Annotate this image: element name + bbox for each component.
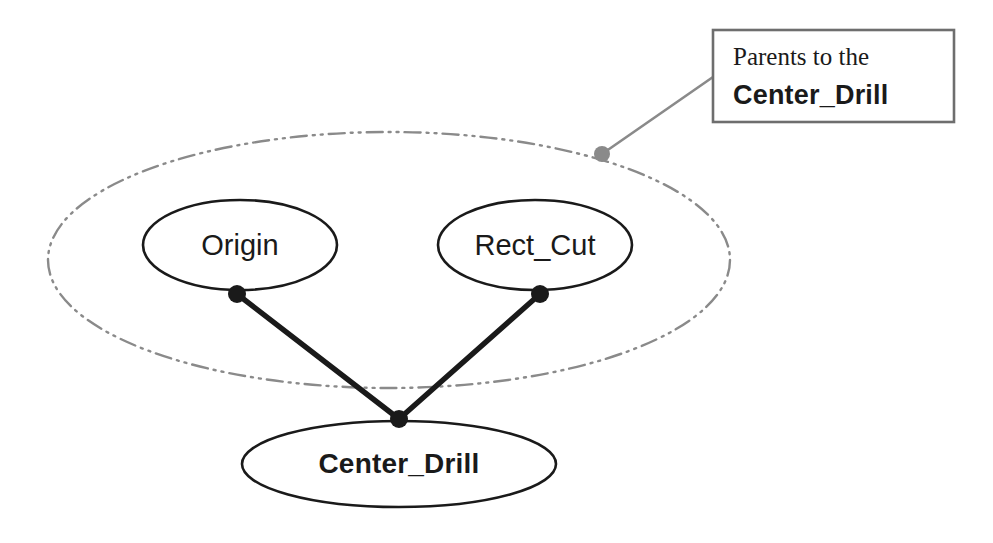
node-rect-cut-label: Rect_Cut xyxy=(475,229,596,261)
callout-annotation: Parents to the Center_Drill xyxy=(713,30,954,122)
edge-rect-cut-to-center-drill xyxy=(399,294,540,419)
connector-dot-rect-cut xyxy=(531,285,549,303)
callout-line-2: Center_Drill xyxy=(733,80,888,110)
callout-leader-line xyxy=(602,77,713,154)
node-rect-cut[interactable]: Rect_Cut xyxy=(438,200,632,290)
node-center-drill[interactable]: Center_Drill xyxy=(242,421,556,507)
callout-line-1: Parents to the xyxy=(733,43,869,70)
node-origin[interactable]: Origin xyxy=(143,200,337,290)
edge-origin-to-center-drill xyxy=(237,294,399,419)
callout-anchor-dot xyxy=(594,146,610,162)
connector-dot-origin xyxy=(228,285,246,303)
connector-dot-center-drill xyxy=(390,410,408,428)
diagram-canvas: Origin Rect_Cut Center_Drill Parents to … xyxy=(0,0,993,543)
node-center-drill-label: Center_Drill xyxy=(318,448,479,479)
diagram-root: Origin Rect_Cut Center_Drill Parents to … xyxy=(0,0,993,543)
node-origin-label: Origin xyxy=(201,229,278,261)
